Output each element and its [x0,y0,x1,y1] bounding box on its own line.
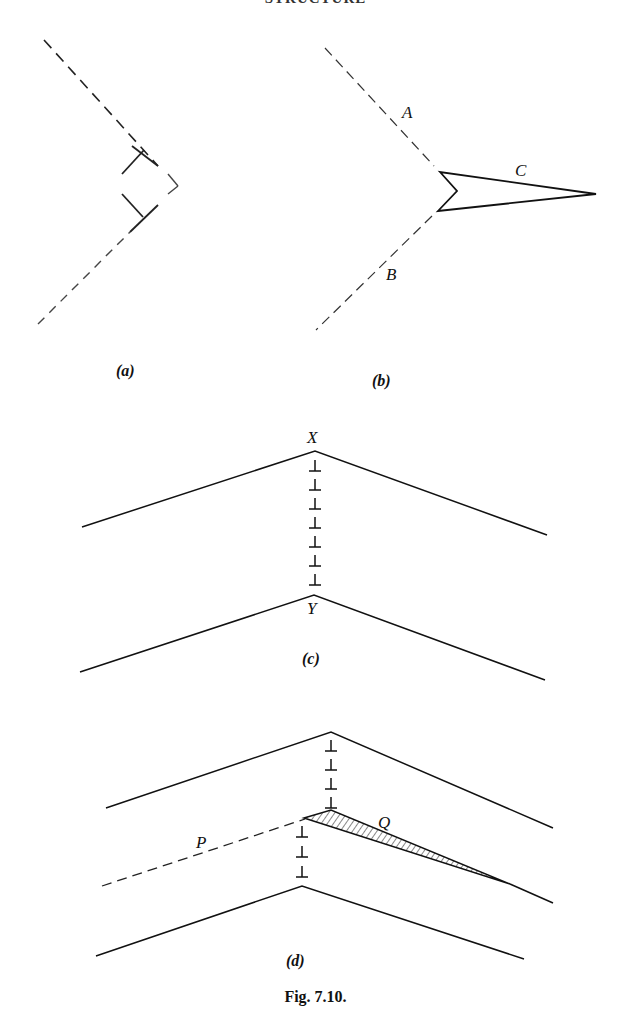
label-C: C [515,161,527,180]
dislocation-upper-bar [132,146,158,166]
label-X: X [306,428,318,447]
panel-d: P Q (d) [96,732,553,970]
dislocation-upper-stem [122,150,144,174]
panel-b-label: (b) [372,372,391,390]
panel-c-label: (c) [302,650,320,668]
dislocation-wall [309,460,321,585]
label-B: B [386,265,397,284]
tip-dash-lower [168,186,178,194]
label-P: P [195,833,206,852]
upper-dashed-boundary [44,40,158,166]
panel-a: (a) [38,40,178,380]
tip-dash-upper [168,174,178,186]
boundary-P [102,819,305,886]
middle-boundary-right [510,884,553,903]
figure-canvas: (a) A B C (b) X Y (c) [0,0,631,1021]
panel-a-label: (a) [116,362,135,380]
boundary-A [325,48,434,166]
label-Q: Q [378,813,390,832]
panel-b: A B C (b) [316,48,596,390]
panel-c: X Y (c) [80,428,547,680]
dislocation-wall-upper [325,740,337,808]
dislocation-lower-bar [130,205,158,232]
figure-caption: Fig. 7.10. [0,988,631,1006]
lower-dashed-boundary [38,232,130,324]
hatched-wedge-Q [304,810,510,884]
label-A: A [401,103,413,122]
boundary-B [316,216,432,330]
label-Y: Y [307,599,318,618]
panel-d-label: (d) [286,952,305,970]
dislocation-lower-stem [122,194,143,217]
dislocation-wall-lower [296,826,308,877]
bottom-boundary [96,886,524,959]
